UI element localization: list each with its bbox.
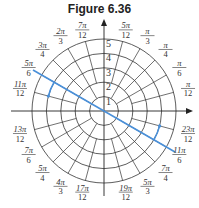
polar-grid-diagram: 12345π12π6π4π35π127π122π33π45π611π1213π1… <box>0 0 199 208</box>
angle-label: 23π12 <box>181 124 195 144</box>
angle-label: 5π3 <box>141 177 155 197</box>
angle-label: 13π12 <box>13 124 27 144</box>
svg-text:6: 6 <box>27 68 31 78</box>
angle-label: π3 <box>141 26 155 46</box>
svg-text:12: 12 <box>16 134 25 144</box>
angle-label: π6 <box>172 58 186 78</box>
svg-text:π: π <box>145 26 150 36</box>
angle-label: π4 <box>159 40 173 60</box>
svg-text:π: π <box>186 79 191 89</box>
angle-label: 17π12 <box>75 183 89 203</box>
svg-text:5π: 5π <box>24 58 33 68</box>
svg-text:12: 12 <box>184 134 193 144</box>
svg-text:19π: 19π <box>119 183 133 193</box>
svg-text:23π: 23π <box>182 124 196 134</box>
radial-grid-line <box>85 139 96 181</box>
angle-label: 19π12 <box>119 183 133 203</box>
svg-text:12: 12 <box>78 192 87 202</box>
angle-label: 5π4 <box>35 163 49 183</box>
radial-tick-label: 5 <box>106 38 111 49</box>
radial-tick-label: 1 <box>106 96 111 107</box>
svg-text:2π: 2π <box>56 26 65 36</box>
angle-label: 5π6 <box>22 58 36 78</box>
highlight-arc <box>154 126 160 140</box>
angle-label: 4π3 <box>54 177 68 197</box>
radial-grid-line <box>111 139 122 181</box>
angle-label: 11π12 <box>13 79 27 99</box>
svg-text:3π: 3π <box>37 40 47 50</box>
svg-text:12: 12 <box>16 88 25 98</box>
svg-text:7π: 7π <box>24 145 33 155</box>
svg-text:4: 4 <box>40 49 45 59</box>
radial-grid-line <box>85 41 96 83</box>
svg-text:7π: 7π <box>78 20 87 30</box>
svg-text:4: 4 <box>163 49 168 59</box>
angle-label: 7π12 <box>75 20 89 40</box>
radial-grid-line <box>132 118 174 129</box>
svg-text:13π: 13π <box>14 124 28 134</box>
svg-text:6: 6 <box>177 68 181 78</box>
radial-tick-label: 4 <box>106 52 111 63</box>
highlight-arc <box>48 82 54 96</box>
svg-text:4π: 4π <box>56 177 65 187</box>
svg-text:π: π <box>163 40 168 50</box>
radial-grid-line <box>34 118 76 129</box>
angle-label: 11π6 <box>172 145 186 165</box>
angle-label: 3π4 <box>35 40 49 60</box>
radial-grid-line <box>132 92 174 103</box>
radial-grid-line <box>111 41 122 83</box>
vertical-axis-arrow-icon <box>101 19 107 26</box>
svg-text:6: 6 <box>177 155 181 165</box>
svg-text:12: 12 <box>78 30 87 40</box>
svg-text:4: 4 <box>40 173 45 183</box>
svg-text:11π: 11π <box>14 79 27 89</box>
svg-text:12: 12 <box>121 30 130 40</box>
svg-text:5π: 5π <box>38 163 47 173</box>
angle-label: π12 <box>181 79 195 99</box>
radial-grid-line <box>34 92 76 103</box>
radial-tick-label: 3 <box>106 67 111 78</box>
svg-text:11π: 11π <box>173 145 186 155</box>
svg-text:5π: 5π <box>143 177 152 187</box>
svg-text:7π: 7π <box>161 163 170 173</box>
highlight-point <box>158 124 161 127</box>
svg-text:3: 3 <box>58 36 62 46</box>
svg-text:17π: 17π <box>76 183 90 193</box>
svg-text:3: 3 <box>145 36 149 46</box>
svg-text:3: 3 <box>145 186 149 196</box>
svg-text:3: 3 <box>58 186 62 196</box>
svg-text:12: 12 <box>184 88 193 98</box>
svg-text:6: 6 <box>27 155 31 165</box>
svg-text:4: 4 <box>163 173 168 183</box>
angle-label: 2π3 <box>54 26 68 46</box>
polar-axis-arrow-icon <box>186 108 193 114</box>
radial-tick-label: 2 <box>106 81 111 92</box>
highlight-point <box>47 94 50 97</box>
svg-text:12: 12 <box>121 192 130 202</box>
angle-label: 5π12 <box>119 20 133 40</box>
angle-label: 7π6 <box>22 145 36 165</box>
svg-text:π: π <box>177 58 182 68</box>
angle-label: 7π4 <box>159 163 173 183</box>
svg-text:5π: 5π <box>121 20 130 30</box>
